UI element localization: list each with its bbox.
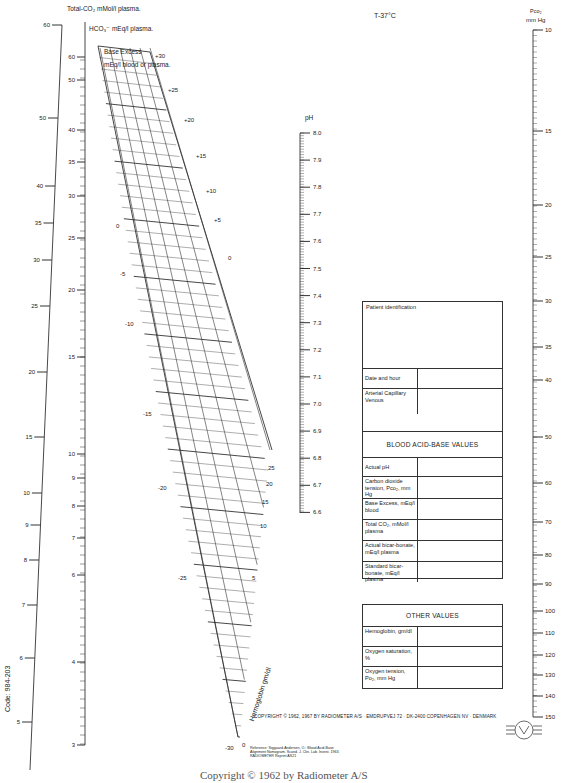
svg-text:5: 5 xyxy=(252,575,256,581)
pco2-label: Pco₂ xyxy=(530,8,542,14)
base-excess-row[interactable]: Base Excess, mEq/l blood xyxy=(363,498,502,519)
svg-text:7.9: 7.9 xyxy=(313,157,322,163)
svg-text:25: 25 xyxy=(268,465,275,471)
base-excess-label: Base Excess xyxy=(104,48,142,55)
svg-text:7.7: 7.7 xyxy=(313,211,322,217)
svg-text:15: 15 xyxy=(545,128,552,134)
acid-base-title: BLOOD ACID-BASE VALUES xyxy=(363,432,502,457)
sample-type-row[interactable]: Arterial Capillary Venous xyxy=(363,388,502,414)
bottom-copyright: Copyright © 1962 by Radiometer A/S xyxy=(200,769,368,781)
svg-text:40: 40 xyxy=(36,183,43,189)
svg-text:0: 0 xyxy=(228,255,232,261)
svg-text:50: 50 xyxy=(545,434,552,440)
svg-text:35: 35 xyxy=(35,220,42,226)
svg-text:40: 40 xyxy=(545,377,552,383)
svg-text:+15: +15 xyxy=(196,153,207,159)
pco2-row[interactable]: Carbon dioxide tension, Pco₂, mm Hg xyxy=(363,476,502,498)
code-label: Code: 984-203 xyxy=(4,666,11,712)
copyright-notice: COPYRIGHT © 1962, 1967 BY RADIOMETER A/S… xyxy=(254,714,496,719)
svg-text:25: 25 xyxy=(31,303,38,309)
svg-text:-20: -20 xyxy=(158,485,167,491)
svg-text:6.8: 6.8 xyxy=(313,455,322,461)
svg-text:20: 20 xyxy=(545,202,552,208)
svg-text:7.8: 7.8 xyxy=(313,184,322,190)
svg-text:0: 0 xyxy=(242,742,246,748)
svg-text:40: 40 xyxy=(68,127,75,133)
svg-text:15: 15 xyxy=(262,499,269,505)
svg-text:7.6: 7.6 xyxy=(313,238,322,244)
svg-text:50: 50 xyxy=(68,77,75,83)
svg-text:7.1: 7.1 xyxy=(313,374,322,380)
pco2-unit-label: mm Hg xyxy=(526,17,545,23)
svg-text:6.9: 6.9 xyxy=(313,428,322,434)
actual-ph-row[interactable]: Actual pH xyxy=(363,457,502,476)
svg-text:3: 3 xyxy=(72,742,76,748)
svg-text:7: 7 xyxy=(72,535,76,541)
svg-text:15: 15 xyxy=(68,354,75,360)
oxygen-tension-row[interactable]: Oxygen tension, Po₂, mm Hg xyxy=(363,666,502,688)
svg-text:+25: +25 xyxy=(168,87,179,93)
svg-text:7: 7 xyxy=(22,602,26,608)
patient-identification-form: Patient identification Date and hour Art… xyxy=(362,301,503,433)
svg-text:10: 10 xyxy=(23,490,30,496)
svg-text:70: 70 xyxy=(545,519,552,525)
svg-text:7.4: 7.4 xyxy=(313,293,322,299)
date-hour-row[interactable]: Date and hour xyxy=(363,368,502,388)
svg-text:7.3: 7.3 xyxy=(313,320,322,326)
svg-text:50: 50 xyxy=(39,115,46,121)
svg-text:9: 9 xyxy=(72,475,76,481)
svg-text:30: 30 xyxy=(545,298,552,304)
svg-text:60: 60 xyxy=(68,54,75,60)
svg-text:10: 10 xyxy=(545,27,552,33)
svg-text:-30: -30 xyxy=(225,745,234,751)
svg-text:4: 4 xyxy=(72,659,76,665)
svg-text:110: 110 xyxy=(545,630,555,636)
oxygen-saturation-row[interactable]: Oxygen saturation, % xyxy=(363,646,502,666)
svg-text:25: 25 xyxy=(68,235,75,241)
total-co2-label: Total-CO₂ mMol/l plasma. xyxy=(67,5,141,12)
blood-acid-base-form: BLOOD ACID-BASE VALUES Actual pH Carbon … xyxy=(362,431,503,579)
svg-text:5: 5 xyxy=(17,719,21,725)
svg-text:+30: +30 xyxy=(155,53,166,59)
svg-text:150: 150 xyxy=(545,714,556,720)
svg-text:9: 9 xyxy=(25,522,29,528)
svg-text:90: 90 xyxy=(545,581,552,587)
temperature-label: T-37°C xyxy=(374,12,396,19)
radiometer-logo xyxy=(506,721,542,739)
hemoglobin-row[interactable]: Hemoglobin, gm/dl xyxy=(363,626,502,646)
svg-text:20: 20 xyxy=(266,481,273,487)
svg-text:10: 10 xyxy=(68,451,75,457)
patient-id-field[interactable]: Patient identification xyxy=(363,302,502,368)
svg-text:10: 10 xyxy=(260,523,267,529)
svg-text:100: 100 xyxy=(545,608,556,614)
svg-text:-15: -15 xyxy=(143,411,152,417)
svg-text:+10: +10 xyxy=(206,188,217,194)
svg-text:7.5: 7.5 xyxy=(313,266,322,272)
svg-text:25: 25 xyxy=(545,254,552,260)
svg-text:60: 60 xyxy=(545,480,552,486)
other-values-title: OTHER VALUES xyxy=(363,605,502,626)
svg-text:6: 6 xyxy=(72,572,76,578)
svg-text:6: 6 xyxy=(19,655,23,661)
svg-text:15: 15 xyxy=(26,434,33,440)
svg-text:20: 20 xyxy=(28,369,35,375)
actual-bicarbonate-row[interactable]: Actual bicar-bonate, mEq/l plasma xyxy=(363,540,502,561)
base-excess-unit-label: mEq/l blood or plasma. xyxy=(104,61,170,68)
svg-text:35: 35 xyxy=(545,344,552,350)
svg-text:-5: -5 xyxy=(120,271,126,277)
svg-text:7.2: 7.2 xyxy=(313,347,322,353)
svg-text:8.0: 8.0 xyxy=(313,130,322,136)
svg-text:30: 30 xyxy=(68,193,75,199)
hco3-label: HCO₃⁻ mEq/l plasma. xyxy=(89,25,153,33)
svg-text:20: 20 xyxy=(68,287,75,293)
total-co2-row[interactable]: Total CO₂, mMol/l plasma xyxy=(363,519,502,540)
svg-text:0: 0 xyxy=(116,223,120,229)
svg-text:35: 35 xyxy=(68,159,75,165)
reference-note: Reference: Siggaard-Andersen, O.: Blood … xyxy=(250,746,340,759)
svg-text:8: 8 xyxy=(72,503,76,509)
other-values-form: OTHER VALUES Hemoglobin, gm/dl Oxygen sa… xyxy=(362,604,503,689)
svg-text:130: 130 xyxy=(545,672,556,678)
svg-text:+5: +5 xyxy=(214,217,222,223)
svg-text:30: 30 xyxy=(33,257,40,263)
standard-bicarbonate-row[interactable]: Standard bicar-bonate, mEq/l plasma xyxy=(363,561,502,582)
